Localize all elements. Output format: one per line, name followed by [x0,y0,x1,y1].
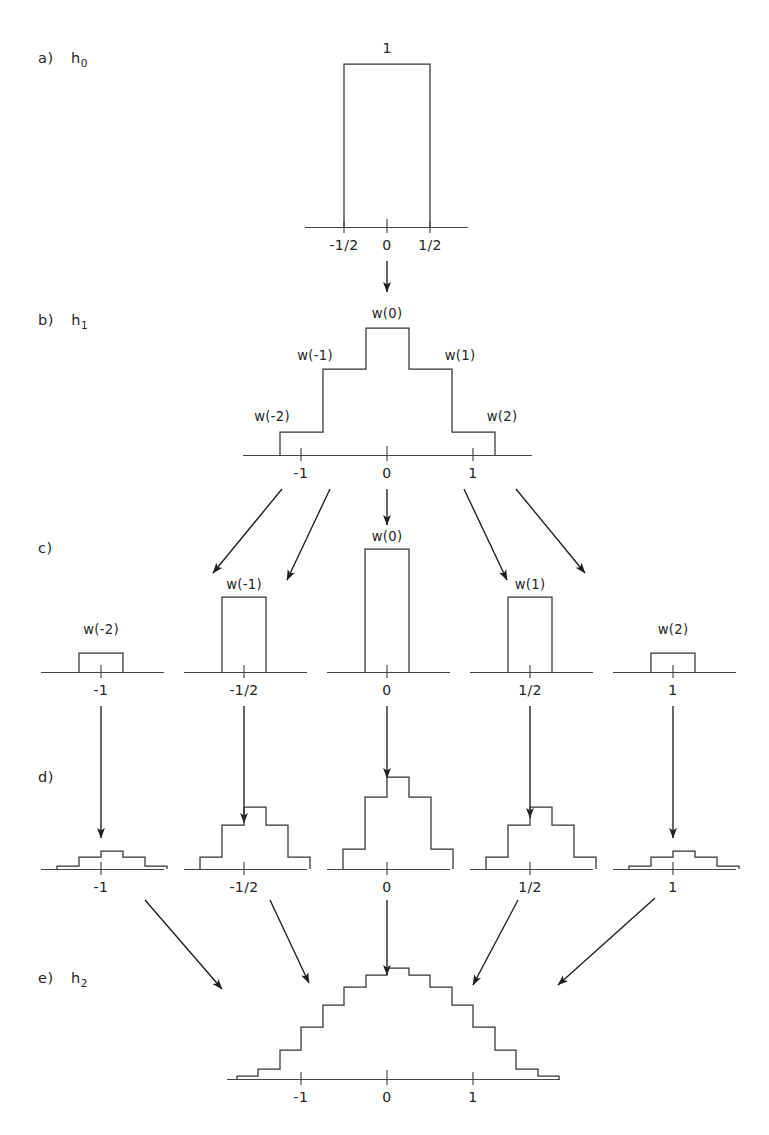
panel-d-subplot-4: 1/2 [470,807,596,895]
panel-c-ticklabel-3: 0 [382,682,391,698]
panel-c-pulse-3 [365,549,409,672]
panel-d-ticklabel-4: 1/2 [518,879,542,895]
cascade-figure: a) h0 1 -1/2 0 1/2 b) h1 w(0) w(-1) w(1)… [0,0,769,1135]
panel-c-pulse-2 [222,597,266,672]
panel-d-subplot-5: 1 [613,851,739,895]
arrow-b-to-c-1 [213,489,282,573]
panel-b-wlabel-pos1: w(1) [445,348,476,363]
panel-c-wlabel-3: w(0) [372,529,403,544]
panel-c-pulse-4 [508,597,552,672]
panel-c-ticklabel-2: -1/2 [229,682,258,698]
panel-a: a) h0 1 -1/2 0 1/2 [38,40,468,253]
panel-c-ticklabel-4: 1/2 [518,682,542,698]
panel-d-staircase-1 [57,851,167,869]
panel-d-label: d) [38,769,54,785]
panel-a-ticklabel-zero: 0 [382,237,391,253]
panel-c-ticklabel-5: 1 [668,682,677,698]
arrows-d-to-e [145,898,655,989]
panel-d-staircase-5 [629,851,739,869]
panel-c-subplot-3: w(0) 0 [327,529,450,698]
panel-d-staircase-2 [200,807,310,869]
panel-c-ticklabel-1: -1 [94,682,109,698]
arrows-c-to-d [101,706,673,838]
panel-a-ticklabel-pos-half: 1/2 [418,237,442,253]
panel-b-ticklabel-neg1: -1 [294,465,309,481]
panel-e-ticklabel-zero: 0 [382,1089,391,1105]
panel-d-staircase-4 [486,807,596,869]
panel-b-wlabel-neg2: w(-2) [254,409,290,424]
panel-c-wlabel-2: w(-1) [226,577,262,592]
arrow-d-to-e-4 [473,900,518,985]
panel-a-pulse [344,64,430,227]
panel-c-label: c) [38,540,53,556]
panel-d-ticklabel-3: 0 [382,879,391,895]
panel-d-subplot-2: -1/2 [184,807,310,895]
panel-c-wlabel-1: w(-2) [83,622,119,637]
panel-c-wlabel-4: w(1) [515,577,546,592]
panel-e-label: e) h2 [38,970,88,989]
arrow-b-to-c-5 [516,489,585,573]
panel-e: e) h2 -1 0 1 [38,968,560,1105]
panel-d-ticklabel-5: 1 [668,879,677,895]
panel-b-ticklabel-zero: 0 [382,465,391,481]
panel-a-ticklabel-neg-half: -1/2 [329,237,358,253]
arrow-b-to-c-4 [464,489,507,580]
panel-c-subplot-2: w(-1) -1/2 [184,577,307,698]
arrow-d-to-e-5 [558,898,655,985]
panel-b-wlabel-0: w(0) [372,306,403,321]
panel-e-staircase [237,968,559,1079]
panel-d-ticklabel-1: -1 [94,879,109,895]
arrow-b-to-c-2 [287,489,330,580]
panel-e-ticklabel-pos1: 1 [468,1089,477,1105]
panel-b-wlabel-pos2: w(2) [487,409,518,424]
panel-c-subplot-5: w(2) 1 [613,622,736,698]
panel-d-staircase-3 [343,777,453,869]
panel-c-wlabel-5: w(2) [658,622,689,637]
panel-d-subplot-1: -1 [41,851,167,895]
panel-b-wlabel-neg1: w(-1) [297,348,333,363]
panel-d-ticklabel-2: -1/2 [229,879,258,895]
panel-d: d) -1 -1/2 0 1/2 [38,769,739,895]
panel-c-subplot-4: w(1) 1/2 [470,577,593,698]
arrow-d-to-e-1 [145,900,222,989]
panel-c-subplot-1: w(-2) -1 [41,622,164,698]
panel-e-ticklabel-neg1: -1 [294,1089,309,1105]
panel-a-amplitude-label: 1 [383,40,392,56]
panel-d-subplot-3: 0 [327,777,453,895]
panel-b-ticklabel-pos1: 1 [468,465,477,481]
panel-c: c) w(-2) -1 w(-1) -1/2 w(0) 0 w(1) [38,529,736,698]
panel-a-label: a) h0 [38,50,88,69]
panel-b-label: b) h1 [38,312,88,331]
panel-b: b) h1 w(0) w(-1) w(1) w(-2) w(2) -1 0 1 [38,306,532,481]
arrow-d-to-e-2 [270,900,309,983]
figure-canvas: a) h0 1 -1/2 0 1/2 b) h1 w(0) w(-1) w(1)… [0,0,769,1135]
